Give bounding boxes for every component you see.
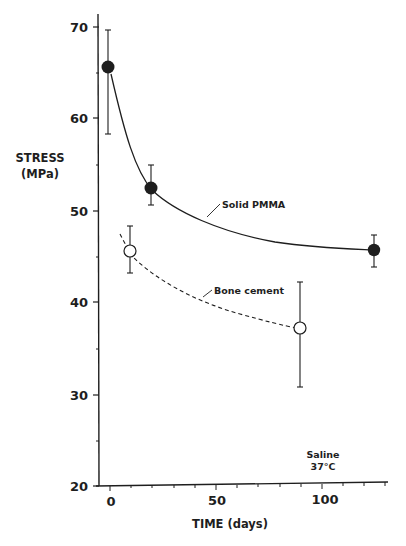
solid-pmma-label: Solid PMMA [222, 199, 286, 210]
solid-pmma-point-day124 [368, 244, 380, 256]
solid-pmma-error-bars [105, 30, 377, 267]
x-axis-line [96, 482, 388, 486]
y-tick-label-20: 20 [70, 479, 88, 494]
bone-cement-point-day10 [124, 245, 136, 257]
bone-cement-label: Bone cement [214, 285, 284, 296]
solid-pmma-curve [111, 74, 372, 250]
condition-label-saline: Saline [307, 449, 340, 460]
condition-label-temperature: 37°C [311, 461, 336, 472]
solid-pmma-point-day20 [145, 182, 158, 195]
y-axis-line [98, 14, 99, 486]
axes [96, 14, 388, 486]
y-tick-label-70: 70 [70, 20, 88, 35]
x-tick-label-0: 0 [106, 494, 115, 509]
solid-pmma-point-day0 [102, 61, 115, 74]
bone-cement-curve [120, 234, 297, 328]
x-tick-label-50: 50 [208, 493, 226, 508]
y-tick-label-30: 30 [70, 388, 88, 403]
stress-vs-time-chart: 70 60 50 40 30 20 0 50 100 STRESS (MPa) … [0, 0, 406, 546]
y-tick-label-40: 40 [70, 295, 88, 310]
x-axis-title: TIME (days) [192, 517, 268, 531]
bone-cement-point-day90 [294, 322, 306, 334]
y-tick-label-60: 60 [70, 111, 88, 126]
bone-cement-leader-line [203, 290, 212, 297]
y-tick-label-50: 50 [70, 204, 88, 219]
x-tick-label-100: 100 [311, 492, 338, 507]
y-axis-title-line2: (MPa) [21, 167, 59, 181]
solid-pmma-leader-line [207, 204, 220, 217]
y-axis-title-line1: STRESS [16, 151, 65, 165]
